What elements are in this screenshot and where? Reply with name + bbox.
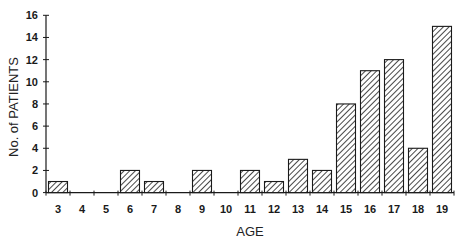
y-tick-label: 0 <box>32 187 38 199</box>
x-tick-label: 17 <box>388 203 400 215</box>
x-tick-label: 7 <box>151 203 157 215</box>
y-tick-label: 4 <box>32 142 39 154</box>
x-tick-label: 5 <box>103 203 109 215</box>
x-tick-label: 8 <box>175 203 181 215</box>
bar-age-7 <box>145 182 164 193</box>
bar-age-17 <box>385 60 404 193</box>
y-tick-label: 10 <box>26 76 38 88</box>
bar-age-14 <box>313 170 332 192</box>
bar-age-3 <box>49 182 68 193</box>
x-tick-label: 10 <box>220 203 232 215</box>
x-tick-label: 15 <box>340 203 352 215</box>
bar-age-6 <box>121 170 140 192</box>
bar-age-18 <box>409 148 428 192</box>
y-tick-label: 16 <box>26 9 38 21</box>
y-tick-label: 8 <box>32 98 38 110</box>
bar-chart: 0246810121416 34567891011121314151617181… <box>0 0 464 242</box>
bar-age-9 <box>193 170 212 192</box>
x-tick-label: 6 <box>127 203 133 215</box>
y-tick-label: 2 <box>32 164 38 176</box>
x-tick-label: 4 <box>79 203 86 215</box>
x-tick-label: 14 <box>316 203 329 215</box>
bar-age-16 <box>361 71 380 193</box>
x-tick-label: 11 <box>244 203 256 215</box>
y-tick-label: 14 <box>26 31 39 43</box>
x-tick-label: 19 <box>436 203 448 215</box>
y-axis-title: No. of PATIENTS <box>6 57 21 157</box>
x-tick-label: 12 <box>268 203 280 215</box>
x-tick-label: 13 <box>292 203 304 215</box>
y-tick-label: 12 <box>26 54 38 66</box>
bar-age-15 <box>337 104 356 193</box>
bar-age-13 <box>289 159 308 192</box>
y-tick-label: 6 <box>32 120 38 132</box>
x-tick-label: 9 <box>199 203 205 215</box>
x-axis-title: AGE <box>236 224 264 239</box>
x-tick-label: 18 <box>412 203 424 215</box>
y-axis: 0246810121416 <box>26 9 49 198</box>
x-axis: 345678910111213141516171819 <box>46 191 454 215</box>
bar-age-19 <box>433 26 452 192</box>
bars <box>49 26 452 192</box>
x-tick-label: 16 <box>364 203 376 215</box>
x-tick-label: 3 <box>55 203 61 215</box>
bar-age-12 <box>265 182 284 193</box>
bar-age-11 <box>241 170 260 192</box>
